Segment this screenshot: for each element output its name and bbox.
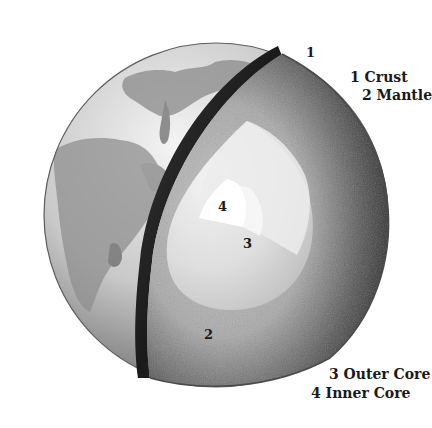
marker-outer-core: 3 xyxy=(243,237,252,250)
legend-item-inner-core: 4 Inner Core xyxy=(311,386,410,400)
legend-item-crust: 1 Crust xyxy=(350,70,408,84)
legend-item-mantle: 2 Mantle xyxy=(362,88,432,102)
marker-mantle: 2 xyxy=(204,328,213,341)
marker-inner-core: 4 xyxy=(218,200,227,213)
legend-item-outer-core: 3 Outer Core xyxy=(329,367,430,381)
marker-crust: 1 xyxy=(306,46,315,59)
